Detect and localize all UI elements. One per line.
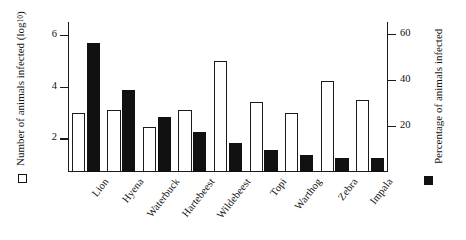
right-tick-label: 60 <box>400 28 411 38</box>
left-axis-title-suffix: ) <box>14 11 26 15</box>
bar-filled-zebra <box>335 158 348 172</box>
bar-filled-hartebeest <box>193 132 206 172</box>
right-axis-title: Percentage of animals infected <box>432 40 445 164</box>
bar-open-topi <box>250 102 263 172</box>
bar-open-warthog <box>285 113 298 172</box>
legend-open-square-icon <box>18 174 27 183</box>
bar-filled-hyena <box>122 90 135 172</box>
bar-group <box>104 22 140 172</box>
bar-group <box>352 22 388 172</box>
plot-area: 246 204060 <box>68 22 388 172</box>
x-label-waterbuck: Waterbuck <box>144 176 181 219</box>
left-tick-label: 6 <box>52 29 57 39</box>
bar-series-container <box>68 22 388 172</box>
x-label-topi: Topi <box>268 176 289 198</box>
left-axis-title: Number of animals infected (log10) <box>14 46 28 166</box>
right-tick-label: 40 <box>400 74 411 84</box>
left-tick <box>60 35 68 36</box>
right-tick <box>388 34 396 35</box>
right-axis-title-line2: animals infected <box>432 29 444 101</box>
bar-group <box>246 22 282 172</box>
bar-filled-lion <box>87 43 100 172</box>
bar-group <box>210 22 246 172</box>
x-label-wildebeest: Wildebeest <box>215 176 253 220</box>
right-tick-label: 20 <box>400 120 411 130</box>
x-label-zebra: Zebra <box>335 176 359 202</box>
bar-open-hyena <box>107 110 120 172</box>
bar-open-hartebeest <box>178 110 191 172</box>
bar-filled-waterbuck <box>158 117 171 172</box>
right-axis-title-line1: Percentage of <box>432 104 444 164</box>
bar-open-waterbuck <box>143 127 156 172</box>
bar-open-zebra <box>321 81 334 172</box>
left-tick <box>60 87 68 88</box>
bar-filled-wildebeest <box>229 143 242 172</box>
left-axis-title-text: Number of animals infected (log <box>14 22 26 166</box>
left-tick-label: 4 <box>52 81 57 91</box>
bar-group <box>317 22 353 172</box>
left-tick-label: 2 <box>52 132 57 142</box>
x-label-hartebeest: Hartebeest <box>180 176 217 219</box>
right-tick <box>388 126 396 127</box>
bar-filled-impala <box>371 158 384 172</box>
bar-group <box>175 22 211 172</box>
x-axis-labels: LionHyenaWaterbuckHartebeestWildebeestTo… <box>68 174 388 238</box>
left-axis-title-sub: 10 <box>16 15 25 23</box>
left-tick <box>60 138 68 139</box>
bar-group <box>281 22 317 172</box>
bar-open-impala <box>356 100 369 172</box>
bar-open-lion <box>72 113 85 172</box>
x-label-warthog: Warthog <box>293 176 324 212</box>
right-tick <box>388 80 396 81</box>
bar-group <box>139 22 175 172</box>
x-label-impala: Impala <box>368 176 395 206</box>
bar-group <box>68 22 104 172</box>
chart-figure: Number of animals infected (log10) Perce… <box>0 0 466 240</box>
bar-filled-topi <box>264 150 277 172</box>
x-label-hyena: Hyena <box>120 176 146 205</box>
x-label-lion: Lion <box>89 176 110 199</box>
bar-filled-warthog <box>300 155 313 172</box>
legend-filled-square-icon <box>424 176 433 185</box>
bar-open-wildebeest <box>214 61 227 172</box>
